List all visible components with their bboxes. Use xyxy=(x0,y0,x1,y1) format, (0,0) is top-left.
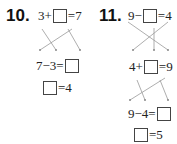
eq-text: =7 xyxy=(68,8,82,24)
equation-second: 4+ =9 xyxy=(129,59,173,75)
equation-middle: 7−3= xyxy=(36,58,80,74)
equation-third: 9−4= xyxy=(128,106,172,122)
eq-text: 9−4= xyxy=(128,106,156,122)
problem-number: 10. xyxy=(6,6,30,26)
eq-text: =4 xyxy=(58,80,72,96)
equation-bottom: =5 xyxy=(133,127,163,143)
answer-box[interactable] xyxy=(143,9,157,23)
eq-text: 9− xyxy=(128,8,142,24)
eq-text: =9 xyxy=(159,59,173,75)
eq-text: 7−3= xyxy=(36,58,64,74)
answer-box[interactable] xyxy=(65,59,79,73)
answer-box[interactable] xyxy=(43,81,57,95)
answer-box[interactable] xyxy=(53,9,67,23)
answer-box[interactable] xyxy=(157,107,171,121)
answer-box[interactable] xyxy=(134,128,148,142)
eq-text: 3+ xyxy=(38,8,52,24)
equation-bottom: =4 xyxy=(42,80,72,96)
problem-number: 11. xyxy=(99,6,122,26)
eq-text: 4+ xyxy=(129,59,143,75)
eq-text: =5 xyxy=(149,127,163,143)
answer-box[interactable] xyxy=(144,60,158,74)
equation-top: 3+ =7 xyxy=(38,8,82,24)
eq-text: =4 xyxy=(158,8,172,24)
equation-top: 9− =4 xyxy=(128,8,172,24)
